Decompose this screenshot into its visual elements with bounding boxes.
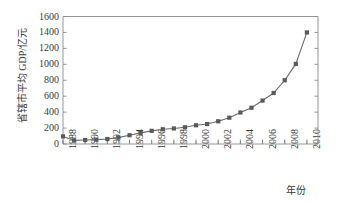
plot-area: [0, 0, 342, 203]
axes: [63, 17, 318, 145]
gdp-line-chart: 省辖市平均 GDP/亿元 年份 020040060080010001200140…: [0, 0, 342, 203]
data-series: [61, 30, 309, 142]
